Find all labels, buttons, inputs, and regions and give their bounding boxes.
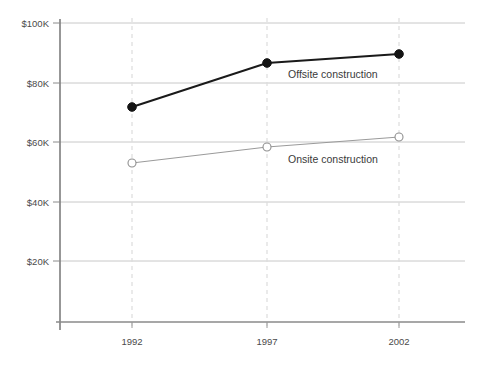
- offsite-point-2002: [395, 50, 404, 59]
- y-tick-label-20k: $20K: [27, 256, 50, 267]
- line-chart-figure: $100K $80K $60K $40K $20K 1992 1997 2002: [0, 0, 483, 366]
- onsite-point-1992: [128, 159, 136, 167]
- offsite-point-1997: [263, 59, 272, 68]
- offsite-series-label: Offsite construction: [288, 68, 378, 80]
- offsite-point-1992: [128, 103, 137, 112]
- y-tick-label-80k: $80K: [27, 78, 50, 89]
- onsite-series-label: Onsite construction: [288, 153, 378, 165]
- onsite-point-1997: [263, 143, 271, 151]
- chart-background: [0, 0, 483, 366]
- chart-canvas: $100K $80K $60K $40K $20K 1992 1997 2002: [0, 0, 483, 366]
- y-tick-label-60k: $60K: [27, 137, 50, 148]
- y-tick-label-40k: $40K: [27, 197, 50, 208]
- onsite-point-2002: [395, 133, 403, 141]
- x-tick-label-2002: 2002: [388, 336, 409, 347]
- x-tick-label-1997: 1997: [256, 336, 277, 347]
- x-tick-label-1992: 1992: [121, 336, 142, 347]
- y-tick-label-100k: $100K: [22, 18, 50, 29]
